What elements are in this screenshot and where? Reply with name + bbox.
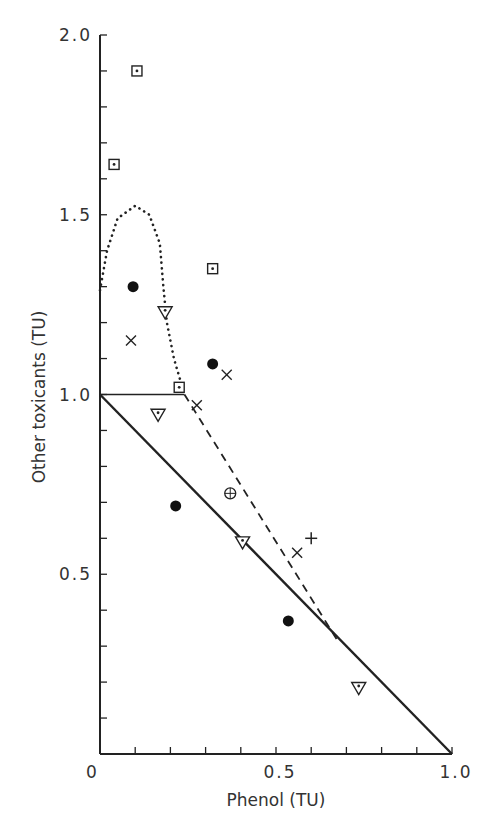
y-axis-label: Other toxicants (TU) [29,311,49,484]
reference-lines [100,206,452,754]
triangle-with-dot-marker [151,409,165,421]
circle-plus-marker [225,488,236,499]
dotted-boundary [100,206,184,395]
triangle-with-dot-marker [158,307,172,319]
x-tick-label: 0.5 [263,762,296,782]
cross-x-marker [192,400,202,410]
square-with-dot-marker [208,264,218,274]
x-tick-label: 1.0 [439,762,472,782]
filled-circle-marker [170,500,181,511]
y-tick-label: 1.5 [59,205,92,225]
triangle-with-dot-marker [236,537,250,549]
plus-marker [305,532,317,544]
dashed-boundary [184,395,337,641]
filled-circle-marker [207,358,218,369]
y-tick-label: 0.5 [59,564,92,584]
square-with-dot-marker [174,382,184,392]
filled-circle-marker [283,615,294,626]
scatter-chart: 0.51.01.52.000.51.0 Phenol (TU) Other to… [0,0,496,823]
data-points [109,66,366,695]
y-tick-label: 1.0 [59,385,92,405]
additivity-line [100,395,452,755]
x-axis-label: Phenol (TU) [227,790,326,810]
y-tick-label: 2.0 [59,25,92,45]
filled-circle-marker [128,281,139,292]
x-tick-label: 0 [86,762,99,782]
square-with-dot-marker [109,159,119,169]
cross-x-marker [126,336,136,346]
triangle-with-dot-marker [352,682,366,694]
cross-x-marker [292,548,302,558]
tick-labels: 0.51.01.52.000.51.0 [59,25,473,782]
cross-x-marker [222,370,232,380]
square-with-dot-marker [132,66,142,76]
